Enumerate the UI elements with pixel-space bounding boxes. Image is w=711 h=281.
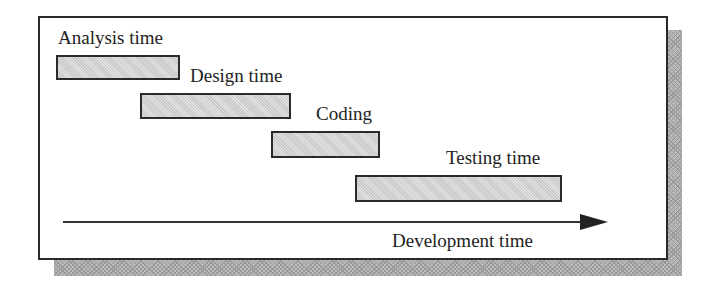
time-axis-line — [63, 221, 595, 223]
arrow-right-icon — [580, 214, 608, 230]
phase-bar-analysis — [56, 55, 180, 80]
phase-label-coding: Coding — [316, 104, 372, 123]
phase-label-design: Design time — [190, 66, 282, 85]
phase-label-testing: Testing time — [446, 148, 540, 167]
phase-bar-design — [140, 93, 291, 119]
phase-label-analysis: Analysis time — [58, 28, 163, 47]
axis-label: Development time — [392, 231, 533, 250]
phase-bar-coding — [271, 131, 380, 158]
phase-bar-testing — [355, 175, 562, 202]
